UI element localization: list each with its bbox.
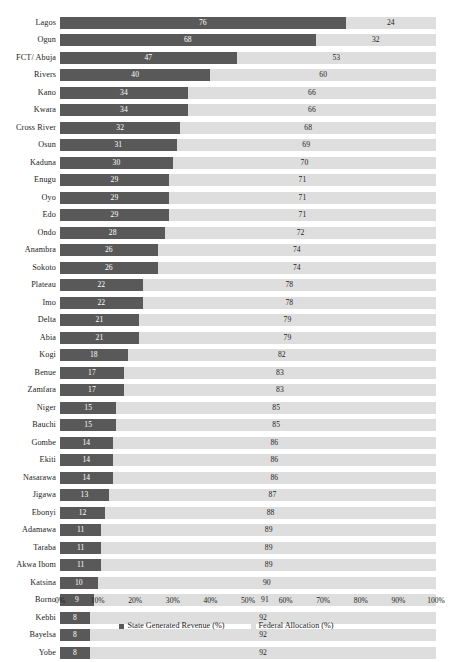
legend-item[interactable]: Federal Allocation (%) — [251, 622, 334, 630]
bar-track: 2674 — [60, 262, 436, 274]
bar-value-label: 11 — [77, 526, 85, 534]
legend-swatch-icon — [251, 624, 256, 629]
category-label: Ebonyi — [0, 509, 60, 517]
bar-segment-state-generated-revenue: 17 — [60, 384, 124, 396]
bar-track: 2179 — [60, 314, 436, 326]
legend-label: State Generated Revenue (%) — [127, 622, 224, 630]
category-label: Rivers — [0, 71, 60, 79]
bar-track: 1189 — [60, 524, 436, 536]
x-axis-tick-label: 90% — [391, 597, 405, 605]
bar-value-label: 79 — [284, 316, 292, 324]
category-label: Zamfara — [0, 386, 60, 394]
bar-segment-state-generated-revenue: 11 — [60, 542, 101, 554]
bar-value-label: 34 — [120, 106, 128, 114]
bar-segment-federal-allocation: 68 — [180, 122, 436, 134]
bar-value-label: 87 — [269, 491, 277, 499]
bar-value-label: 26 — [105, 246, 113, 254]
bar-segment-state-generated-revenue: 11 — [60, 559, 101, 571]
bar-value-label: 89 — [265, 526, 273, 534]
category-label: Kaduna — [0, 159, 60, 167]
bar-value-label: 71 — [299, 194, 307, 202]
bar-value-label: 40 — [131, 71, 139, 79]
x-axis-tick-label: 60% — [279, 597, 293, 605]
bar-value-label: 11 — [77, 561, 85, 569]
bar-value-label: 86 — [270, 439, 278, 447]
bar-segment-state-generated-revenue: 31 — [60, 139, 177, 151]
bar-track: 892 — [60, 647, 436, 659]
category-label: Lagos — [0, 19, 60, 27]
bar-value-label: 71 — [299, 211, 307, 219]
x-axis-tick-label: 10% — [91, 597, 105, 605]
bar-row: Rivers4060 — [0, 67, 453, 85]
bar-row: Benue1783 — [0, 364, 453, 382]
bar-value-label: 34 — [120, 89, 128, 97]
bar-segment-state-generated-revenue: 18 — [60, 349, 128, 361]
bar-row: Anambra2674 — [0, 242, 453, 260]
bar-row: Niger1585 — [0, 399, 453, 417]
bar-value-label: 17 — [88, 386, 96, 394]
bar-segment-state-generated-revenue: 10 — [60, 577, 98, 589]
bar-segment-state-generated-revenue: 26 — [60, 262, 158, 274]
bar-row: Imo2278 — [0, 294, 453, 312]
bar-row: Sokoto2674 — [0, 259, 453, 277]
bar-track: 3268 — [60, 122, 436, 134]
bar-track: 1090 — [60, 577, 436, 589]
bar-segment-federal-allocation: 24 — [346, 17, 436, 29]
bar-segment-federal-allocation: 92 — [90, 629, 436, 641]
bar-value-label: 76 — [199, 19, 207, 27]
category-label: Edo — [0, 211, 60, 219]
bar-row: Delta2179 — [0, 312, 453, 330]
bar-value-label: 90 — [263, 579, 271, 587]
bar-track: 1882 — [60, 349, 436, 361]
bar-segment-state-generated-revenue: 13 — [60, 489, 109, 501]
bar-value-label: 14 — [82, 439, 90, 447]
legend-item[interactable]: State Generated Revenue (%) — [119, 622, 224, 630]
bar-value-label: 83 — [276, 369, 284, 377]
category-label: Akwa Ibom — [0, 561, 60, 569]
bar-row: Cross River3268 — [0, 119, 453, 137]
category-label: Nasarawa — [0, 474, 60, 482]
bar-segment-state-generated-revenue: 34 — [60, 104, 188, 116]
bar-value-label: 68 — [304, 124, 312, 132]
bar-value-label: 17 — [88, 369, 96, 377]
bar-track: 1783 — [60, 367, 436, 379]
plot-area: Lagos7624Ogun6832FCT/ Abuja4753Rivers406… — [0, 14, 453, 662]
category-label: Kano — [0, 89, 60, 97]
bar-track: 2971 — [60, 174, 436, 186]
bar-row: Kano3466 — [0, 84, 453, 102]
bar-row: Yobe892 — [0, 644, 453, 662]
bar-row: Osun3169 — [0, 137, 453, 155]
bar-value-label: 14 — [82, 456, 90, 464]
bar-value-label: 86 — [270, 474, 278, 482]
bar-segment-state-generated-revenue: 14 — [60, 437, 113, 449]
bar-row: Ogun6832 — [0, 32, 453, 50]
bar-row: Plateau2278 — [0, 277, 453, 295]
bar-row: Kaduna3070 — [0, 154, 453, 172]
bar-segment-federal-allocation: 74 — [158, 262, 436, 274]
category-label: Benue — [0, 369, 60, 377]
bar-segment-federal-allocation: 53 — [237, 52, 436, 64]
x-axis-tick-label: 30% — [166, 597, 180, 605]
category-label: Sokoto — [0, 264, 60, 272]
bar-segment-federal-allocation: 71 — [169, 192, 436, 204]
category-label: FCT/ Abuja — [0, 54, 60, 62]
bar-segment-state-generated-revenue: 22 — [60, 297, 143, 309]
bar-segment-state-generated-revenue: 32 — [60, 122, 180, 134]
bar-track: 2278 — [60, 279, 436, 291]
bar-value-label: 78 — [285, 281, 293, 289]
category-label: Kogi — [0, 351, 60, 359]
bar-segment-federal-allocation: 85 — [116, 402, 436, 414]
bar-segment-federal-allocation: 83 — [124, 384, 436, 396]
bar-track: 2971 — [60, 209, 436, 221]
bar-value-label: 66 — [308, 106, 316, 114]
category-label: Abia — [0, 334, 60, 342]
bar-segment-state-generated-revenue: 8 — [60, 629, 90, 641]
bar-value-label: 15 — [84, 404, 92, 412]
bar-track: 892 — [60, 629, 436, 641]
category-label: Ekiti — [0, 456, 60, 464]
bar-segment-federal-allocation: 83 — [124, 367, 436, 379]
bar-value-label: 10 — [75, 579, 83, 587]
bar-track: 1585 — [60, 419, 436, 431]
bar-row: Taraba1189 — [0, 539, 453, 557]
bar-segment-state-generated-revenue: 40 — [60, 69, 210, 81]
